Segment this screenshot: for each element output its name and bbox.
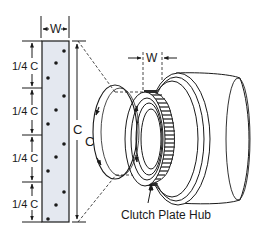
hub-callout-label: Clutch Plate Hub (121, 209, 211, 221)
strip-segment-label-1: 1/4 C (12, 61, 38, 72)
strip-width-label: W (50, 23, 61, 35)
hub-circumference-label: C (85, 135, 94, 148)
clutch-plate-hub (125, 73, 250, 205)
hub-width-label: W (146, 52, 157, 64)
strip-length-label: C (73, 123, 82, 136)
friction-strip (42, 41, 69, 222)
strip-segment-label-3: 1/4 C (12, 153, 38, 164)
strip-segment-label-4: 1/4 C (12, 199, 38, 210)
strip-segment-label-2: 1/4 C (12, 106, 38, 117)
hub-callout-leader (148, 184, 153, 203)
